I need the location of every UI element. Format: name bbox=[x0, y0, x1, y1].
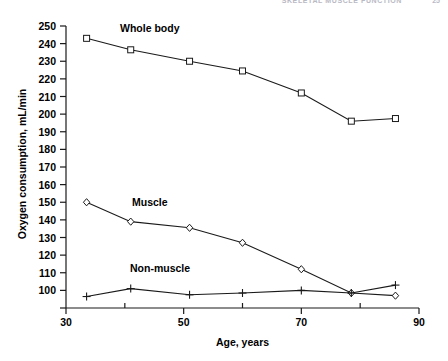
y-axis-tick-label: 130 bbox=[26, 233, 56, 243]
x-axis-tick-label: 30 bbox=[51, 317, 81, 327]
marker-diamond bbox=[298, 266, 304, 273]
series-label-muscle: Muscle bbox=[132, 196, 168, 208]
x-axis-tick-label: 70 bbox=[286, 317, 316, 327]
x-axis-tick-label: 90 bbox=[404, 317, 434, 327]
marker-square bbox=[128, 47, 134, 53]
marker-diamond bbox=[83, 199, 89, 206]
y-axis-tick-label: 250 bbox=[26, 21, 56, 31]
marker-diamond bbox=[128, 218, 134, 225]
series-label-whole-body: Whole body bbox=[120, 22, 180, 34]
series-label-non-muscle: Non-muscle bbox=[130, 262, 190, 274]
y-axis-tick-label: 240 bbox=[26, 39, 56, 49]
marker-diamond bbox=[239, 239, 245, 246]
y-axis-tick-label: 110 bbox=[26, 268, 56, 278]
marker-square bbox=[392, 116, 398, 122]
series-whole-body bbox=[84, 35, 399, 124]
y-axis-tick-label: 190 bbox=[26, 127, 56, 137]
marker-diamond bbox=[186, 224, 192, 231]
y-axis-tick-label: 170 bbox=[26, 162, 56, 172]
marker-square bbox=[298, 90, 304, 96]
x-axis-tick-label: 50 bbox=[169, 317, 199, 327]
y-axis-tick-label: 160 bbox=[26, 180, 56, 190]
series-line bbox=[87, 202, 396, 295]
y-axis-tick-label: 100 bbox=[26, 285, 56, 295]
marker-square bbox=[348, 118, 354, 124]
marker-diamond bbox=[392, 292, 398, 299]
y-axis-tick-label: 210 bbox=[26, 92, 56, 102]
y-axis-tick-label: 230 bbox=[26, 56, 56, 66]
y-axis-tick-label: 150 bbox=[26, 197, 56, 207]
y-axis-tick-label: 120 bbox=[26, 250, 56, 260]
x-axis-title: Age, years bbox=[66, 336, 419, 348]
y-axis-tick-label: 140 bbox=[26, 215, 56, 225]
y-axis-tick-label: 180 bbox=[26, 144, 56, 154]
oxygen-consumption-vs-age-chart: Oxygen consumption, mL/min Age, years Wh… bbox=[0, 0, 448, 361]
marker-square bbox=[240, 68, 246, 74]
y-axis-tick-label: 220 bbox=[26, 74, 56, 84]
y-axis-tick-label: 200 bbox=[26, 109, 56, 119]
y-axis-ticks bbox=[60, 26, 66, 308]
chart-series-group bbox=[83, 35, 400, 300]
marker-square bbox=[84, 35, 90, 41]
chart-canvas bbox=[0, 0, 448, 361]
marker-square bbox=[187, 58, 193, 64]
series-muscle bbox=[83, 199, 398, 300]
